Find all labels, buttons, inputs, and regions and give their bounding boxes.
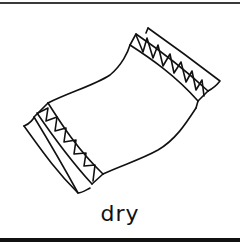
bottom-border: [0, 238, 240, 242]
towel-left-hem: [24, 117, 90, 193]
towel-body: [48, 45, 130, 103]
towel-right-hem: [148, 28, 220, 91]
towel-left-zigzag: [38, 108, 95, 181]
illustration-label: dry: [0, 201, 240, 226]
